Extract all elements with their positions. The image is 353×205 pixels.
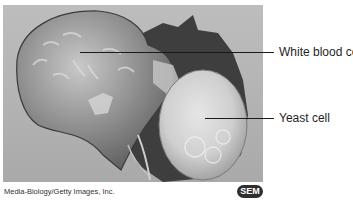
sem-badge: SEM: [237, 185, 263, 198]
sem-micrograph: [3, 5, 263, 182]
image-credit: Media-Biology/Getty Images, Inc.: [4, 187, 114, 196]
figure: White blood cell Yeast cell Media-Biolog…: [0, 0, 353, 205]
yeast-cell-leader-line: [205, 118, 274, 119]
white-blood-cell-leader-line: [80, 52, 274, 53]
white-blood-cell-label: White blood cell: [279, 45, 353, 59]
micrograph-illustration: [3, 5, 263, 182]
yeast-cell-label: Yeast cell: [279, 111, 330, 125]
